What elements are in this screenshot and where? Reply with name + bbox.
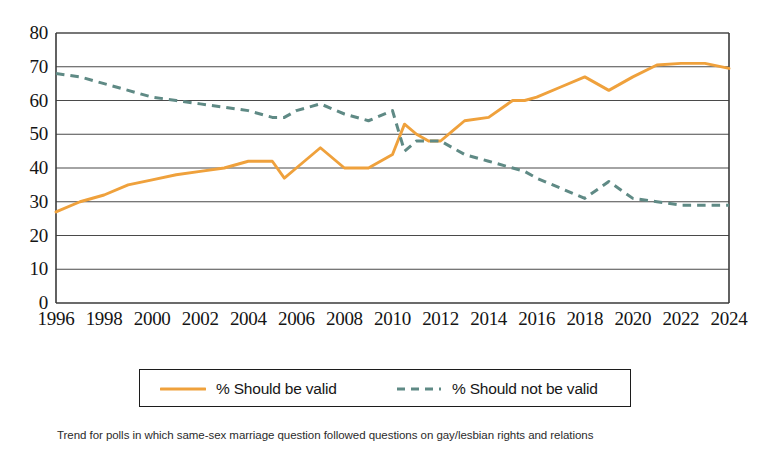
y-tick-label-60: 60	[2, 91, 48, 110]
chart-legend: % Should be valid % Should not be valid	[139, 369, 631, 407]
y-tick-label-50: 50	[2, 124, 48, 143]
y-tick-label-10: 10	[2, 259, 48, 278]
chart-container: 80706050403020100 1996199820002002200420…	[0, 0, 765, 453]
legend-label-should-not-be-valid: % Should not be valid	[452, 380, 598, 398]
y-tick-label-80: 80	[2, 23, 48, 42]
y-tick-label-70: 70	[2, 57, 48, 76]
y-tick-label-30: 30	[2, 192, 48, 211]
legend-swatch-dashed-line-icon	[396, 382, 442, 396]
data-series	[56, 63, 729, 212]
chart-footnote: Trend for polls in which same-sex marria…	[57, 429, 593, 441]
y-tick-label-40: 40	[2, 158, 48, 177]
x-tick-label-2024: 2024	[699, 309, 759, 328]
legend-label-should-be-valid: % Should be valid	[216, 380, 337, 398]
legend-swatch-solid-line-icon	[160, 382, 206, 396]
y-tick-label-20: 20	[2, 226, 48, 245]
series-line-1	[56, 74, 729, 206]
legend-item-should-be-valid: % Should be valid	[160, 370, 337, 408]
series-line-0	[56, 63, 729, 212]
legend-item-should-not-be-valid: % Should not be valid	[396, 370, 598, 408]
